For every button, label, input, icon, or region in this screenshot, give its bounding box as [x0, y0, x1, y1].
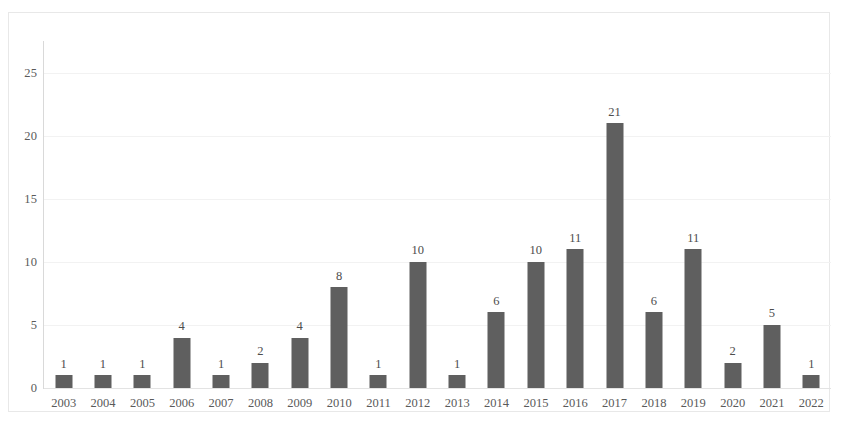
bar-value-2004: 1	[100, 358, 106, 371]
bar-slot-2004: 1	[83, 41, 122, 388]
bar-2015[interactable]	[527, 262, 544, 388]
bar-2017[interactable]	[606, 123, 623, 388]
bar-slot-2021: 5	[752, 41, 791, 388]
bar-2013[interactable]	[449, 375, 466, 388]
bar-2006[interactable]	[173, 338, 190, 388]
bar-2016[interactable]	[567, 249, 584, 388]
x-tick-label-2003: 2003	[42, 397, 86, 410]
bar-2004[interactable]	[94, 375, 111, 388]
bar-value-2017: 21	[608, 106, 621, 119]
bar-slot-2010: 8	[319, 41, 358, 388]
bar-slot-2009: 4	[280, 41, 319, 388]
bar-value-2012: 10	[412, 244, 425, 257]
bar-2022[interactable]	[803, 375, 820, 388]
x-tick-label-2012: 2012	[396, 397, 440, 410]
bar-slot-2016: 11	[556, 41, 595, 388]
x-tick-label-2006: 2006	[160, 397, 204, 410]
bar-slot-2014: 6	[477, 41, 516, 388]
bar-2019[interactable]	[685, 249, 702, 388]
x-tick-label-2005: 2005	[120, 397, 164, 410]
bars-layer: 1114124811016101121611251	[44, 41, 831, 388]
bar-value-2006: 4	[179, 320, 185, 333]
x-tick-label-2010: 2010	[317, 397, 361, 410]
bar-slot-2015: 10	[516, 41, 555, 388]
y-tick-label-25: 25	[9, 67, 37, 80]
x-tick-label-2004: 2004	[81, 397, 125, 410]
bar-value-2018: 6	[651, 295, 657, 308]
bar-value-2007: 1	[218, 358, 224, 371]
bar-value-2021: 5	[769, 307, 775, 320]
bar-2009[interactable]	[291, 338, 308, 388]
y-tick-label-20: 20	[9, 130, 37, 143]
bar-value-2019: 11	[687, 232, 699, 245]
bar-2012[interactable]	[409, 262, 426, 388]
bar-slot-2018: 6	[634, 41, 673, 388]
x-tick-label-2009: 2009	[278, 397, 322, 410]
x-tick-label-2019: 2019	[671, 397, 715, 410]
bar-2008[interactable]	[252, 363, 269, 388]
x-tick-label-2018: 2018	[632, 397, 676, 410]
y-tick-label-15: 15	[9, 193, 37, 206]
bar-slot-2008: 2	[241, 41, 280, 388]
bar-value-2020: 2	[729, 345, 735, 358]
bar-2005[interactable]	[134, 375, 151, 388]
bar-value-2009: 4	[297, 320, 303, 333]
y-tick-label-10: 10	[9, 256, 37, 269]
bar-value-2005: 1	[139, 358, 145, 371]
bar-value-2011: 1	[375, 358, 381, 371]
bar-value-2015: 10	[530, 244, 543, 257]
x-tick-label-2016: 2016	[553, 397, 597, 410]
gridline-0	[44, 388, 831, 389]
bar-2011[interactable]	[370, 375, 387, 388]
x-tick-label-2017: 2017	[593, 397, 637, 410]
x-tick-label-2013: 2013	[435, 397, 479, 410]
bar-slot-2005: 1	[123, 41, 162, 388]
bar-2007[interactable]	[213, 375, 230, 388]
bar-2021[interactable]	[763, 325, 780, 388]
bar-slot-2011: 1	[359, 41, 398, 388]
bar-slot-2006: 4	[162, 41, 201, 388]
y-tick-label-5: 5	[9, 319, 37, 332]
bar-slot-2017: 21	[595, 41, 634, 388]
bar-value-2016: 11	[569, 232, 581, 245]
bar-slot-2019: 11	[674, 41, 713, 388]
x-tick-label-2007: 2007	[199, 397, 243, 410]
bar-value-2003: 1	[61, 358, 67, 371]
bar-2003[interactable]	[55, 375, 72, 388]
bar-slot-2022: 1	[792, 41, 831, 388]
bar-2010[interactable]	[331, 287, 348, 388]
x-tick-label-2014: 2014	[475, 397, 519, 410]
bar-value-2013: 1	[454, 358, 460, 371]
bar-slot-2013: 1	[438, 41, 477, 388]
x-tick-label-2020: 2020	[711, 397, 755, 410]
bar-2020[interactable]	[724, 363, 741, 388]
bar-slot-2012: 10	[398, 41, 437, 388]
bar-value-2008: 2	[257, 345, 263, 358]
x-tick-label-2021: 2021	[750, 397, 794, 410]
x-tick-label-2015: 2015	[514, 397, 558, 410]
x-tick-label-2008: 2008	[238, 397, 282, 410]
bar-value-2010: 8	[336, 270, 342, 283]
y-tick-label-0: 0	[9, 382, 37, 395]
bar-slot-2007: 1	[201, 41, 240, 388]
bar-value-2022: 1	[808, 358, 814, 371]
bar-2018[interactable]	[645, 312, 662, 388]
x-tick-label-2011: 2011	[356, 397, 400, 410]
chart-frame: 0510152025 1114124811016101121611251 200…	[8, 12, 830, 412]
x-tick-label-2022: 2022	[789, 397, 833, 410]
bar-value-2014: 6	[493, 295, 499, 308]
bar-slot-2003: 1	[44, 41, 83, 388]
bar-2014[interactable]	[488, 312, 505, 388]
bar-slot-2020: 2	[713, 41, 752, 388]
